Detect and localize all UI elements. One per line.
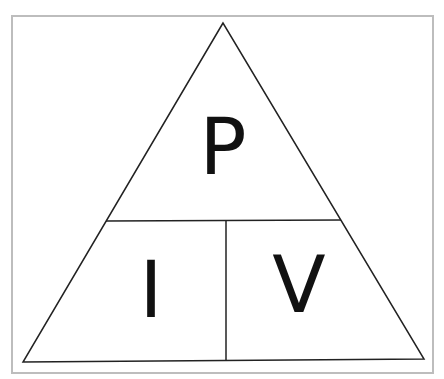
label-power: P: [199, 108, 246, 186]
label-voltage: V: [272, 246, 325, 324]
horizontal-divider: [106, 220, 341, 221]
label-current: I: [139, 251, 162, 329]
triangle-outline: [23, 23, 424, 362]
